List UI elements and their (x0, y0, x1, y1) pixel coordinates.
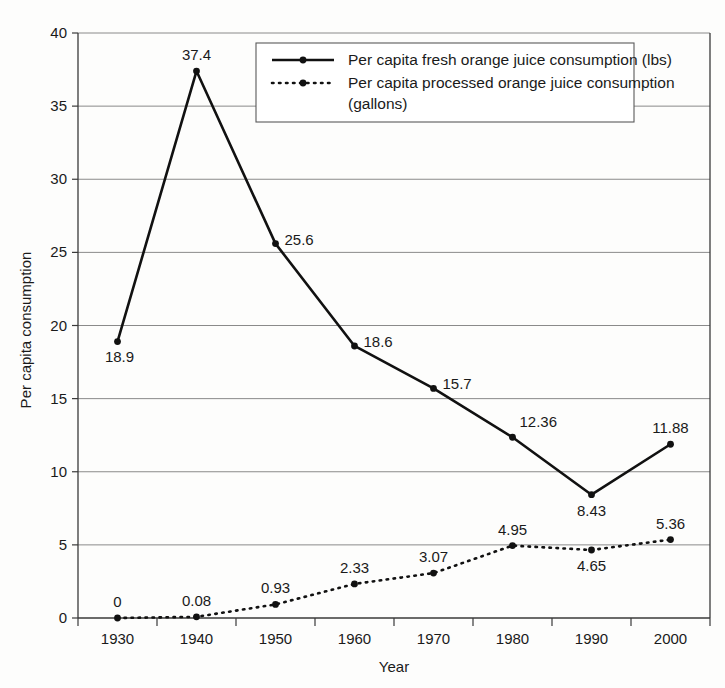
x-tick-label-1930: 1930 (101, 630, 134, 647)
data-label-1-1940: 37.4 (182, 46, 211, 63)
data-point-2-1970 (430, 570, 437, 577)
x-tick-label-1980: 1980 (496, 630, 529, 647)
data-point-2-2000 (667, 536, 674, 543)
data-point-2-1940 (193, 613, 200, 620)
y-tick-label-30: 30 (50, 170, 67, 187)
data-point-2-1980 (509, 542, 516, 549)
legend-swatch-marker-1 (300, 57, 307, 64)
y-tick-label-0: 0 (59, 609, 67, 626)
x-tick-label-1960: 1960 (338, 630, 371, 647)
line-chart: 0510152025303540 19301940195019601970198… (0, 0, 725, 688)
data-label-1-1990: 8.43 (577, 502, 606, 519)
data-label-2-1980: 4.95 (498, 521, 527, 538)
x-axis-title: Year (379, 658, 409, 675)
data-point-1-1970 (430, 385, 437, 392)
x-tick-label-2000: 2000 (654, 630, 687, 647)
chart-figure: 0510152025303540 19301940195019601970198… (0, 0, 725, 688)
x-tick-label-1990: 1990 (575, 630, 608, 647)
data-point-1-1990 (588, 491, 595, 498)
chart-legend[interactable]: Per capita fresh orange juice consumptio… (256, 43, 675, 122)
data-label-2-1940: 0.08 (182, 592, 211, 609)
data-label-2-1950: 0.93 (261, 579, 290, 596)
data-point-1-2000 (667, 441, 674, 448)
x-tick-label-1970: 1970 (417, 630, 450, 647)
data-label-1-1980: 12.36 (520, 413, 558, 430)
y-tick-label-10: 10 (50, 463, 67, 480)
data-label-2-2000: 5.36 (656, 515, 685, 532)
data-point-2-1950 (272, 601, 279, 608)
data-label-2-1960: 2.33 (340, 559, 369, 576)
data-label-1-1930: 18.9 (105, 348, 134, 365)
y-tick-label-20: 20 (50, 317, 67, 334)
data-point-1-1940 (193, 68, 200, 75)
data-point-1-1950 (272, 240, 279, 247)
data-label-1-1970: 15.7 (443, 375, 472, 392)
y-tick-label-15: 15 (50, 390, 67, 407)
y-tick-label-25: 25 (50, 243, 67, 260)
data-point-1-1960 (351, 343, 358, 350)
x-tick-label-1940: 1940 (180, 630, 213, 647)
y-tick-label-5: 5 (59, 536, 67, 553)
data-label-1-2000: 11.88 (652, 419, 688, 436)
legend-label-3[interactable]: (gallons) (348, 95, 407, 112)
data-label-2-1990: 4.65 (577, 557, 606, 574)
x-tick-label-1950: 1950 (259, 630, 292, 647)
legend-swatch-marker-2 (300, 80, 307, 87)
legend-label-1[interactable]: Per capita fresh orange juice consumptio… (348, 51, 672, 68)
data-label-1-1960: 18.6 (364, 333, 393, 350)
data-point-1-1980 (509, 434, 516, 441)
y-tick-label-35: 35 (50, 97, 67, 114)
data-label-2-1930: 0 (113, 593, 121, 610)
data-point-2-1960 (351, 581, 358, 588)
data-point-1-1930 (114, 338, 121, 345)
y-axis-title: Per capita consumption (17, 252, 34, 409)
legend-label-2[interactable]: Per capita processed orange juice consum… (348, 74, 675, 91)
data-point-2-1930 (114, 615, 121, 622)
y-tick-label-40: 40 (50, 24, 67, 41)
data-point-2-1990 (588, 547, 595, 554)
data-label-2-1970: 3.07 (419, 548, 448, 565)
data-label-1-1950: 25.6 (285, 231, 314, 248)
